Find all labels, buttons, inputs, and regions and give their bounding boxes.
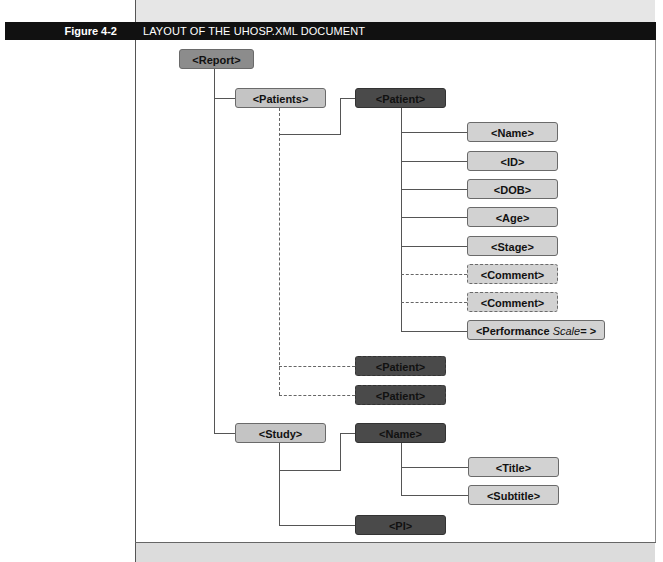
node-comment-optional-1: <Comment>: [467, 264, 558, 284]
node-study: <Study>: [235, 423, 326, 443]
node-patients: <Patients>: [235, 88, 326, 108]
performance-element-name: <Performance: [476, 325, 553, 337]
bottom-gray-band: [135, 542, 655, 562]
patients-to-patient-opt2: [279, 395, 355, 396]
name-stem: [401, 443, 402, 496]
performance-attribute: Scale: [553, 325, 581, 337]
patient-to-stage: [401, 246, 467, 247]
node-pi: <PI>: [355, 515, 446, 535]
node-name: <Name>: [467, 122, 558, 142]
patient-to-comment1: [401, 274, 467, 275]
patient-to-comment2: [401, 302, 467, 303]
report-to-patients: [214, 98, 235, 99]
node-report: <Report>: [179, 49, 254, 69]
performance-suffix: = >: [580, 325, 596, 337]
patients-to-patient-h: [279, 134, 340, 135]
patient-stem: [401, 108, 402, 331]
patient-to-id: [401, 161, 467, 162]
study-to-name-v: [340, 433, 341, 471]
node-dob: <DOB>: [467, 179, 558, 199]
study-stem: [279, 443, 280, 526]
figure-title: LAYOUT OF THE UHOSP.XML DOCUMENT: [143, 22, 365, 40]
frame-right-border: [655, 40, 656, 543]
patient-to-age: [401, 217, 467, 218]
node-patient-optional-1: <Patient>: [355, 356, 446, 376]
node-stage: <Stage>: [467, 236, 558, 256]
top-gray-band: [135, 0, 655, 22]
node-study-name: <Name>: [355, 423, 446, 443]
study-to-pi: [279, 525, 355, 526]
node-performance: <Performance Scale= >: [467, 320, 605, 340]
patient-to-dob: [401, 189, 467, 190]
patient-to-name: [401, 132, 467, 133]
name-to-title: [401, 467, 468, 468]
frame-bottom-border: [135, 542, 656, 543]
study-to-name-h: [279, 470, 340, 471]
node-id: <ID>: [467, 151, 558, 171]
patients-stem-dashed: [279, 108, 280, 395]
node-patient-optional-2: <Patient>: [355, 385, 446, 405]
patients-to-patient-top: [340, 98, 355, 99]
node-title: <Title>: [468, 457, 559, 477]
patients-to-patient-v: [340, 98, 341, 135]
patients-to-patient-opt1: [279, 366, 355, 367]
name-to-subtitle: [401, 495, 468, 496]
study-to-name-top: [340, 433, 355, 434]
node-comment-optional-2: <Comment>: [467, 292, 558, 312]
node-patient: <Patient>: [355, 88, 446, 108]
node-age: <Age>: [467, 207, 558, 227]
node-subtitle: <Subtitle>: [468, 485, 559, 505]
report-to-study: [214, 433, 235, 434]
figure-label: Figure 4-2: [5, 22, 135, 40]
patient-to-performance: [401, 331, 467, 332]
frame-left-border: [135, 0, 136, 562]
report-stem: [214, 69, 215, 433]
